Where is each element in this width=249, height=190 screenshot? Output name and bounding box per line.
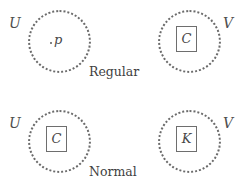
set-label-regular-right: V [223,16,233,30]
boxed-set-label-regular-right: C [182,32,192,45]
axiom-caption-normal: Normal [89,166,137,179]
point-label-p: p [54,33,62,46]
set-label-regular-left: U [9,16,21,30]
point-marker-p [50,42,52,44]
boxed-set-normal-right: K [176,126,197,152]
set-label-normal-left: U [9,116,21,130]
boxed-set-label-normal-right: K [182,132,192,145]
axiom-caption-regular: Regular [89,66,139,79]
boxed-set-label-normal-left: C [52,132,62,145]
set-label-normal-right: V [223,116,233,130]
boxed-set-regular-right: C [176,26,197,52]
separation-axioms-figure: U p V C Regular U C V K Normal [0,0,249,190]
boxed-set-normal-left: C [46,126,67,152]
